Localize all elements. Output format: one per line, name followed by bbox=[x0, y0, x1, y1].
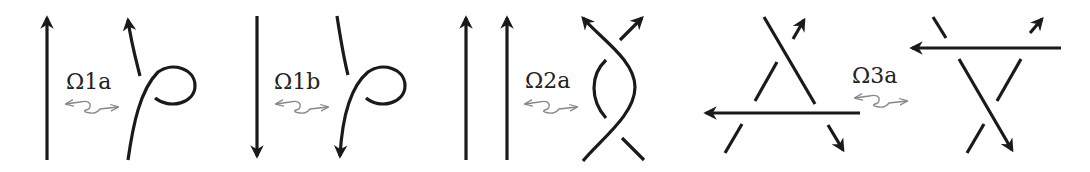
crossing-under-bottom bbox=[622, 138, 644, 160]
move-label: Ω1b bbox=[274, 69, 320, 94]
move-omega1b: Ω1b bbox=[257, 16, 405, 156]
tri-left-arrow-bottom bbox=[828, 125, 843, 150]
tri-right-desc-top bbox=[933, 17, 946, 38]
kink-over-arrow bbox=[128, 20, 140, 76]
tri-right-asc-mid bbox=[997, 59, 1021, 101]
move-label: Ω1a bbox=[66, 69, 111, 94]
move-omega2a: Ω2a bbox=[466, 18, 644, 161]
tri-left-arrow-top bbox=[793, 20, 804, 39]
crossing-under-top-arrow bbox=[620, 18, 642, 40]
kink-loop-strand bbox=[128, 67, 195, 160]
tri-right-desc-arrow bbox=[959, 59, 1012, 150]
equivalence-squiggle-arrow bbox=[66, 101, 118, 113]
move-label: Ω2a bbox=[525, 68, 570, 93]
move-omega1a: Ω1a bbox=[47, 18, 195, 160]
tri-left-asc-bottom bbox=[725, 124, 742, 153]
kink-loop-arrow bbox=[340, 67, 405, 156]
tri-left-desc-strand bbox=[764, 17, 815, 104]
tri-right-arrow-top bbox=[1030, 19, 1042, 33]
equivalence-squiggle-arrow bbox=[276, 101, 328, 113]
equivalence-squiggle-arrow bbox=[855, 95, 907, 107]
crossing-over-strand bbox=[583, 18, 635, 161]
tri-right-asc-bottom bbox=[967, 124, 984, 153]
equivalence-squiggle-arrow bbox=[525, 101, 577, 113]
crossing-under-middle bbox=[594, 60, 606, 118]
move-label: Ω3a bbox=[852, 63, 897, 88]
tri-left-asc-mid bbox=[755, 62, 777, 101]
kink-top-strand bbox=[337, 16, 348, 75]
reidemeister-diagram: Ω1a Ω1b Ω2a Ω3a bbox=[0, 0, 1090, 172]
move-omega3a: Ω3a bbox=[706, 17, 1061, 153]
